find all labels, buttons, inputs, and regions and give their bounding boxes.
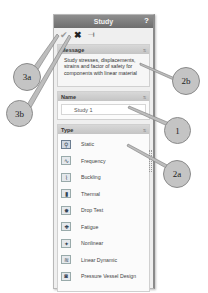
callout-leader-lines <box>0 0 208 293</box>
annotated-screenshot: Study ? ✔ ✖ ⟞ Message ≈ Study stresses, … <box>0 0 208 293</box>
callout-3b: 3b <box>6 100 33 127</box>
callout-1: 1 <box>164 117 191 144</box>
callout-3a: 3a <box>13 63 41 91</box>
callout-2b: 2b <box>172 67 200 95</box>
callout-2a: 2a <box>163 160 191 188</box>
